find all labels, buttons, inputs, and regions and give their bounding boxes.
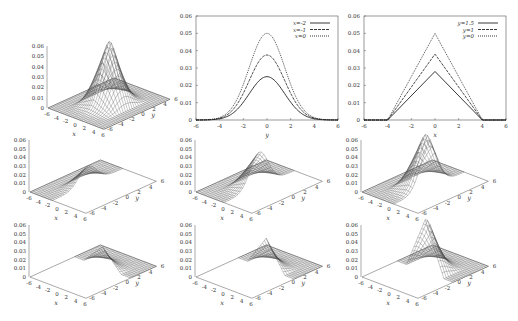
x-tick-label: 2	[65, 294, 69, 300]
surface-mesh	[397, 220, 488, 283]
y-tick-label: 6	[161, 178, 165, 184]
y-tick-label: 6	[174, 96, 178, 102]
z-tick-label: 0.02	[346, 257, 358, 263]
y-tick-label: 0	[357, 117, 361, 123]
y-tick-label: 6	[161, 263, 165, 269]
z-tick-label: 0.05	[14, 231, 27, 237]
x-tick-label: -6	[44, 111, 50, 117]
z-tick-label: 0.02	[180, 172, 192, 178]
y-tick-label: -2	[113, 285, 118, 291]
surface-mesh	[75, 245, 157, 278]
z-tick-label: 0.02	[14, 257, 26, 263]
x-tick-label: 2	[83, 125, 87, 131]
y-axis-label: y	[134, 279, 139, 287]
z-tick-label: 0.05	[14, 146, 27, 152]
z-tick-label: 0.04	[346, 154, 359, 160]
z-tick-label: 0.02	[180, 257, 192, 263]
y-tick-label: -4	[267, 290, 273, 296]
z-tick-label: 0.02	[14, 172, 26, 178]
y-tick-label: 0	[189, 117, 193, 123]
z-tick-label: 0.01	[180, 180, 192, 186]
z-tick-label: 0.04	[32, 64, 45, 70]
x-tick-label: -2	[409, 123, 414, 129]
y-tick-label: -4	[267, 205, 273, 211]
y-tick-label: -6	[255, 295, 261, 301]
x-tick-label: -6	[193, 123, 199, 129]
y-tick-label: 4	[315, 184, 319, 190]
z-tick-label: 0.04	[180, 154, 193, 160]
z-tick-label: 0.06	[14, 137, 27, 143]
y-tick-label: -6	[89, 295, 95, 301]
x-tick-label: 6	[249, 216, 253, 222]
x-tick-label: -6	[192, 280, 198, 286]
z-tick-label: 0.05	[346, 231, 359, 237]
y-tick-label: 0.01	[348, 100, 360, 106]
x-axis-label: x	[54, 299, 58, 307]
x-tick-label: -2	[45, 287, 50, 293]
z-tick-label: 0.02	[32, 84, 44, 90]
plot-frame	[364, 16, 506, 120]
series-line-2	[364, 33, 506, 120]
legend-label: x=-1	[293, 27, 306, 33]
y-axis-label: y	[300, 279, 305, 287]
chart-surf-full: 00.010.020.030.040.050.06-6-4-20246-6-4-…	[32, 42, 179, 139]
z-tick-label: 0.03	[14, 248, 27, 254]
x-tick-label: 6	[415, 301, 419, 307]
x-tick-label: 6	[249, 301, 253, 307]
y-axis-label: y	[134, 194, 139, 202]
y-tick-label: -2	[113, 200, 118, 206]
z-tick-label: 0.03	[32, 74, 45, 80]
y-tick-label: -6	[89, 210, 95, 216]
x-tick-label: -6	[26, 280, 32, 286]
x-tick-label: -6	[361, 123, 367, 129]
x-tick-label: 0	[221, 291, 225, 297]
x-tick-label: -4	[54, 115, 60, 121]
x-tick-label: 4	[92, 129, 96, 135]
z-tick-label: 0.06	[180, 222, 193, 228]
y-tick-label: 0.01	[180, 100, 192, 106]
z-tick-label: 0.04	[346, 239, 359, 245]
surface-mesh	[362, 135, 464, 204]
chart-surf-r3c3: 00.010.020.030.040.050.06-6-4-20246-6-4-…	[346, 220, 497, 308]
x-tick-label: 2	[397, 209, 401, 215]
x-tick-label: 0	[433, 123, 437, 129]
x-tick-label: -6	[26, 195, 32, 201]
y-tick-label: 0.04	[348, 48, 361, 54]
x-tick-label: 0	[387, 291, 391, 297]
x-tick-label: 6	[101, 132, 105, 138]
x-tick-label: 2	[289, 123, 293, 129]
z-tick-label: 0.06	[346, 222, 359, 228]
x-tick-label: -4	[36, 199, 42, 205]
y-tick-label: 6	[493, 178, 497, 184]
legend-label: x=0	[295, 33, 307, 39]
x-tick-label: -6	[358, 280, 364, 286]
chart-surf-r3c2: 00.010.020.030.040.050.06-6-4-20246-6-4-…	[180, 222, 331, 307]
z-tick-label: 0.06	[180, 137, 193, 143]
x-tick-label: 4	[74, 298, 78, 304]
chart-surf-r2c3: 00.010.020.030.040.050.06-6-4-20246-6-4-…	[346, 135, 497, 223]
z-tick-label: 0.01	[346, 180, 358, 186]
x-tick-label: -2	[63, 118, 68, 124]
x-tick-label: 2	[231, 209, 235, 215]
y-tick-label: -2	[445, 200, 450, 206]
chart-surf-r3c1: 00.010.020.030.040.050.06-6-4-20246-6-4-…	[14, 222, 165, 307]
x-tick-label: -4	[217, 123, 223, 129]
y-tick-label: 0.05	[348, 30, 361, 36]
y-tick-label: -4	[433, 205, 439, 211]
x-tick-label: 4	[240, 298, 244, 304]
y-tick-label: 0.03	[180, 65, 193, 71]
z-tick-label: 0.06	[14, 222, 27, 228]
x-tick-label: 2	[231, 294, 235, 300]
y-tick-label: -2	[445, 285, 450, 291]
y-axis-label: y	[300, 194, 305, 202]
y-tick-label: -2	[279, 285, 284, 291]
x-tick-label: -2	[377, 287, 382, 293]
y-tick-label: 4	[149, 184, 153, 190]
z-tick-label: 0.04	[14, 239, 27, 245]
x-tick-label: -4	[368, 199, 374, 205]
y-tick-label: -6	[255, 210, 261, 216]
z-tick-label: 0.01	[14, 265, 26, 271]
z-tick-label: 0.03	[346, 163, 359, 169]
x-tick-label: -2	[377, 202, 382, 208]
y-tick-label: 0.06	[180, 13, 193, 19]
